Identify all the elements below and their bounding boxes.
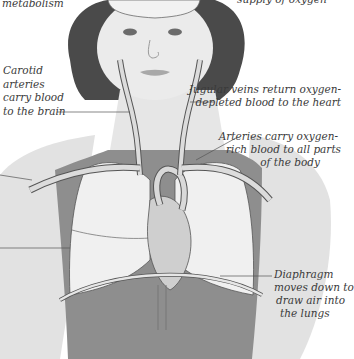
label-diaphragm: Diaphragm moves down to draw air into th…: [274, 268, 354, 320]
label-metabolism: metabolism: [2, 0, 64, 10]
right-eye: [168, 29, 182, 36]
label-jugular-veins: Jugular veins return oxygen- depleted bl…: [189, 83, 341, 109]
left-eye: [123, 29, 137, 36]
label-oxygen-supply: supply of oxygen: [237, 0, 327, 6]
label-arteries: Arteries carry oxygen- rich blood to all…: [219, 130, 338, 169]
label-carotid-arteries: Carotid arteries carry blood to the brai…: [3, 64, 66, 118]
